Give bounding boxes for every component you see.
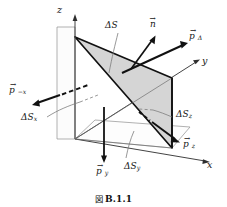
label-delta-s-z-subscript: z	[189, 112, 192, 119]
label-p-y: → p y	[96, 167, 108, 176]
figure-caption: 図B.1.1	[0, 192, 227, 204]
back-plane-yz	[57, 27, 75, 139]
label-delta-s: ΔS	[105, 21, 118, 30]
label-delta-s-z: ΔSz	[176, 110, 192, 119]
vector-arrow-icon: →	[150, 15, 156, 23]
axis-label-y: y	[202, 56, 207, 66]
vector-arrow-icon: →	[184, 135, 190, 143]
p-minus-x-vector-arrow	[37, 95, 60, 103]
label-p-minus-x: → p −x	[9, 86, 26, 95]
label-p-z: → p z	[183, 140, 195, 149]
label-p-minus-x-subscript: −x	[18, 88, 27, 95]
axis-label-z: z	[57, 5, 62, 15]
label-p-minus-x-group: → p	[9, 85, 18, 95]
vector-arrow-icon: →	[97, 162, 103, 170]
figure-caption-symbol: 図	[95, 194, 103, 204]
label-p-z-group: → p	[183, 139, 192, 149]
p-delta-vector-arrow	[122, 45, 183, 73]
label-p-y-group: → p	[96, 166, 105, 176]
axis-z-arrowhead	[73, 14, 78, 21]
leader-delta-s-x-dashes	[80, 95, 98, 102]
label-delta-s-z-text: ΔS	[176, 109, 189, 119]
label-delta-s-y-subscript: y	[137, 164, 141, 171]
label-delta-s-y: ΔSy	[124, 162, 140, 171]
label-normal-vector-group: → n	[150, 19, 156, 29]
label-p-delta-subscript: Δ	[198, 34, 202, 41]
label-p-z-subscript: z	[192, 142, 195, 149]
label-p-y-subscript: y	[105, 169, 109, 176]
label-delta-s-y-text: ΔS	[124, 161, 137, 171]
label-delta-s-x-text: ΔS	[21, 112, 34, 122]
figure-caption-number: B.1.1	[105, 194, 132, 204]
vector-arrow-icon: →	[10, 81, 16, 89]
vector-arrow-icon: →	[190, 27, 196, 35]
figure-container: z y x ΔS → n → p Δ → p −x ΔSx ΔSz → p z	[0, 0, 227, 207]
axis-label-x: x	[207, 160, 212, 170]
label-delta-s-x: ΔSx	[21, 113, 37, 122]
label-delta-s-text: ΔS	[105, 20, 118, 30]
label-normal-vector: → n	[150, 20, 156, 29]
p-delta-vector-arrowhead	[180, 41, 188, 49]
p-minus-x-vector-arrowhead	[32, 99, 40, 106]
label-p-delta: → p Δ	[189, 32, 202, 41]
label-delta-s-x-subscript: x	[34, 115, 38, 122]
label-p-delta-group: → p	[189, 31, 198, 41]
